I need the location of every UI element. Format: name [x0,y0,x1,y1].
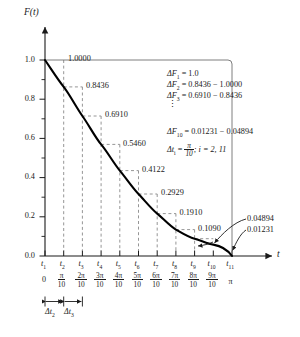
x-tick-value: π [229,278,233,286]
x-tick-value-den: 10 [188,280,199,288]
delta-t2-symbol: Δt [45,307,52,316]
x-tick-value-den: 10 [58,280,66,288]
annotation-subscript: 10 [177,132,183,138]
delta-t3-sub: 3 [71,312,74,318]
delta-t3-label: Δt3 [64,308,74,318]
x-tick-value: π10 [58,272,66,290]
x-tick-name-sub: 6 [137,264,140,270]
x-tick-value: 0 [42,276,46,284]
x-tick-name: t7 [153,260,158,270]
annotation-vertical-dots: ⋮ [168,103,177,106]
point-value-label: 0.1910 [180,209,203,217]
annotation-rhs: = 0.01231 − 0.04894 [185,127,254,136]
annotation-symbol: ΔF [167,127,177,136]
x-tick-value-den: 10 [113,280,124,288]
point-value-label: 0.01231 [247,226,274,234]
point-value-label: 0.6910 [105,111,128,119]
y-tick-label: 0.8 [15,95,35,103]
annotation-line-2: ΔF2 = 0.8436 − 1.0000 [167,81,242,91]
x-tick-name: t1 [41,260,46,270]
x-tick-name: t9 [191,260,196,270]
x-tick-name: t5 [116,260,121,270]
x-tick-value: 8π10 [188,272,199,290]
annotation-rhs: = 1.0 [182,69,199,78]
annotation-rhs: = 0.8436 − 1.0000 [182,80,242,89]
delta-t3-symbol: Δt [64,307,71,316]
x-tick-name-sub: 9 [193,264,196,270]
point-value-label: 0.2929 [161,189,184,197]
y-tick-label: 1.0 [15,56,35,64]
x-tick-value-den: 10 [150,280,161,288]
x-tick-name-sub: 8 [174,264,177,270]
x-tick-name-sub: 4 [99,264,102,270]
x-tick-value: 4π10 [113,272,124,290]
x-tick-name-sub: 7 [155,264,158,270]
x-tick-value-den: 10 [94,280,105,288]
x-tick-value: 5π10 [132,272,143,290]
x-tick-name-sub: 2 [62,264,65,270]
figure-container: F(t) t 1.0 0.8 0.6 0.4 0.2 0.0 1.0000 0.… [0,0,300,337]
point-value-label: 0.4122 [142,166,165,174]
y-tick-label: 0.6 [15,134,35,142]
annotation-symbol: ΔF [167,80,177,89]
annotation-equals: = [178,145,183,154]
x-tick-name: t3 [78,260,83,270]
annotation-line-1: ΔF1 = 1.0 [167,70,199,80]
x-tick-name-sub: 11 [229,264,234,270]
x-tick-value: 3π10 [94,272,105,290]
y-tick-label: 0.4 [15,173,35,181]
x-axis-title: t [277,250,280,260]
x-tick-value: 2π10 [75,272,86,290]
annotation-line-5: Δti = π10; i = 2, 11 [167,142,226,158]
x-tick-name-sub: 10 [210,264,216,270]
x-tick-value-den: 10 [75,280,86,288]
x-tick-value-den: 10 [206,280,217,288]
delta-t2-label: Δt2 [45,308,55,318]
x-ticks [45,251,232,257]
annotation-frac-den: 10 [184,150,193,157]
y-tick-label: 0.0 [15,252,35,260]
x-tick-name-sub: 5 [118,264,121,270]
annotation-line-3: ΔF3 = 0.6910 − 0.8436 [167,92,242,102]
x-tick-value-den: 10 [169,280,180,288]
annotation-subscript: 3 [177,96,180,102]
point-value-label: 0.04894 [247,215,274,223]
annotation-symbol: ΔF [167,69,177,78]
x-tick-name: t8 [172,260,177,270]
x-tick-name: t2 [60,260,65,270]
x-tick-name: t11 [226,260,234,270]
x-tick-name: t10 [208,260,216,270]
x-tick-value: 6π10 [150,272,161,290]
point-value-label: 0.5460 [123,140,146,148]
annotation-tail: ; i = 2, 11 [194,145,226,154]
x-tick-value-text: π [229,277,233,286]
delta-t2-sub: 2 [52,312,55,318]
y-axis-title: F(t) [24,8,39,18]
x-tick-name: t6 [135,260,140,270]
annotation-subscript: i [174,150,176,156]
point-value-label: 0.8436 [86,82,109,90]
point-value-label: 0.1090 [198,225,221,233]
annotation-rhs: = 0.6910 − 0.8436 [182,91,242,100]
x-tick-name: t4 [97,260,102,270]
y-tick-label: 0.2 [15,212,35,220]
annotation-subscript: 1 [177,74,180,80]
x-tick-value-den: 10 [132,280,143,288]
x-tick-value-text: 0 [42,275,46,284]
x-tick-name-sub: 3 [81,264,84,270]
annotation-subscript: 2 [177,85,180,91]
x-tick-value: 7π10 [169,272,180,290]
point-value-label: 1.0000 [68,55,91,63]
x-tick-name-sub: 1 [43,264,46,270]
x-tick-value: 9π10 [206,272,217,290]
delta-t-measure [45,297,82,307]
annotation-line-4: ΔF10 = 0.01231 − 0.04894 [167,128,253,138]
